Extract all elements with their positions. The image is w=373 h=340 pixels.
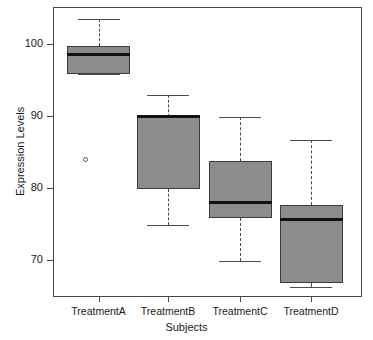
x-tick-mark bbox=[168, 296, 169, 302]
median-line bbox=[280, 218, 343, 221]
box-group-treatmentd bbox=[54, 8, 361, 296]
x-axis-title: Subjects bbox=[0, 321, 373, 333]
y-tick-mark bbox=[47, 116, 53, 117]
y-tick-mark bbox=[47, 44, 53, 45]
plot-area bbox=[54, 8, 361, 296]
y-tick-mark bbox=[47, 260, 53, 261]
x-tick-mark bbox=[311, 296, 312, 302]
y-tick-label: 70 bbox=[13, 254, 43, 265]
y-tick-mark bbox=[47, 188, 53, 189]
boxplot-figure: 708090100 TreatmentATreatmentBTreatmentC… bbox=[0, 0, 373, 340]
box-rect bbox=[280, 205, 343, 283]
lower-whisker-cap bbox=[290, 287, 332, 288]
upper-whisker-cap bbox=[290, 140, 332, 141]
x-tick-mark bbox=[240, 296, 241, 302]
y-tick-label: 100 bbox=[13, 38, 43, 49]
x-tick-mark bbox=[99, 296, 100, 302]
upper-whisker bbox=[311, 140, 312, 206]
y-axis-title: Expression Levels bbox=[14, 107, 26, 196]
x-tick-label-treatmentd: TreatmentD bbox=[266, 305, 356, 317]
